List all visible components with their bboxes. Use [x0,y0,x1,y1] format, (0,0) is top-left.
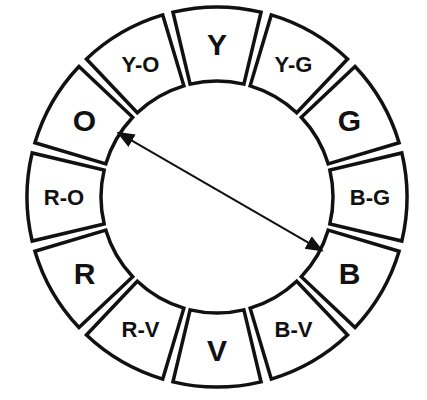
segment-label: V [207,334,227,367]
segment-label: R-V [122,317,160,342]
segment-y: Y [173,7,261,84]
segment-label: B [339,257,361,290]
wheel-segments: YY-GGB-GBB-VVR-VRR-OOY-O [27,7,407,387]
segment-r-o: R-O [27,153,104,241]
segment-label: Y-G [275,52,313,77]
color-wheel-diagram: YY-GGB-GBB-VVR-VRR-OOY-O [0,0,427,400]
segment-v: V [173,310,261,387]
segment-label: Y [207,28,227,61]
segment-label: G [338,104,361,137]
segment-label: Y-O [122,52,160,77]
segment-label: R-O [44,185,84,210]
segment-label: R [74,257,96,290]
segment-label: B-V [275,317,313,342]
segment-label: O [73,104,96,137]
complementary-arrow [118,133,322,251]
segment-b-g: B-G [330,153,407,241]
segment-label: B-G [350,185,390,210]
